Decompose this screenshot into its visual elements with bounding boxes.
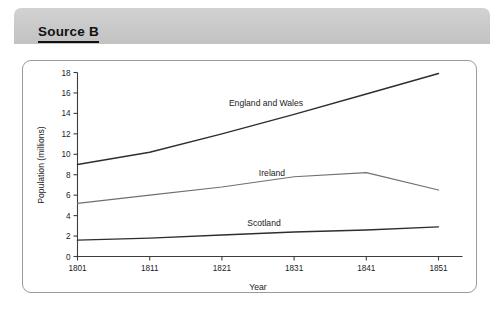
chart-panel xyxy=(22,60,477,293)
source-header-band: Source B xyxy=(14,8,490,44)
source-label: Source B xyxy=(38,24,99,43)
source-b-figure: Source B 024681012141618 180118111821183… xyxy=(0,0,498,309)
